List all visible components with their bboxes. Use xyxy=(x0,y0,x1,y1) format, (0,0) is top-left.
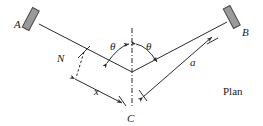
cable-segment-left xyxy=(39,24,132,72)
dimension-tick-x-end xyxy=(119,96,126,106)
label-point-a: A xyxy=(13,18,21,30)
label-point-c: C xyxy=(127,112,135,124)
plan-diagram-canvas: A B C N θ θ x a Plan xyxy=(0,0,263,126)
dimension-tick-a-end xyxy=(207,38,218,44)
label-dimension-a: a xyxy=(190,56,196,68)
label-angle-right: θ xyxy=(146,40,152,52)
plan-diagram: A B C N θ θ x a Plan xyxy=(0,0,263,126)
label-angle-left: θ xyxy=(110,40,116,52)
dimension-tick-a-start xyxy=(139,90,147,101)
wall-support-icon-left xyxy=(22,8,39,31)
label-view-plan: Plan xyxy=(223,85,243,97)
wall-support-icon-right xyxy=(223,6,240,29)
label-dimension-x: x xyxy=(93,85,99,97)
label-point-n: N xyxy=(56,52,65,64)
dimension-line-a xyxy=(143,37,212,97)
label-point-b: B xyxy=(242,26,249,38)
